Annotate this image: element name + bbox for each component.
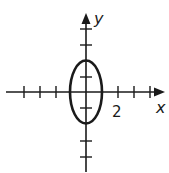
y-axis-arrow-icon [82,13,91,24]
y-axis-label: y [93,9,104,28]
x-axis-arrow-icon [154,88,165,97]
x-tick-label-2: 2 [112,103,122,121]
graph: y x 2 [0,0,169,173]
x-axis-label: x [155,98,166,117]
